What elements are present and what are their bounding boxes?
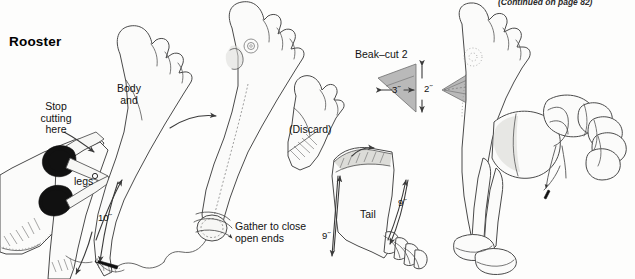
label-stop-cutting-here: Stop cutting here [28,101,84,136]
figure-finished-rooster [454,3,627,275]
dimension-tail-right: 9˝ [398,197,406,208]
label-gather-to-close-open-ends: Gather to close open ends [235,221,306,244]
craft-diagram-artwork: .ln{fill:none;stroke:#4a4a4a;stroke-widt… [0,0,635,279]
figure-scissors-cutting-sock [0,132,110,279]
label-body-and: Body and [108,83,150,106]
continued-note: (Continued on page 82) [498,0,592,7]
label-legs: legs [74,176,93,188]
label-tail: Tail [360,209,376,221]
dimension-tail-left: 9˝ [322,230,330,241]
figure-sock-body-and-legs [94,26,216,276]
page-title: Rooster [9,34,61,49]
dimension-beak-height: 2˝ [424,83,432,94]
label-beak-cut-2: Beak–cut 2 [355,49,408,61]
figure-tail-sock-piece [332,148,427,269]
dimension-body-length: 10˝ [98,212,112,223]
dimension-beak-width: 3˝ [392,84,400,95]
label-discard: (Discard) [289,124,332,136]
illustration-stage: .ln{fill:none;stroke:#4a4a4a;stroke-widt… [0,0,635,279]
